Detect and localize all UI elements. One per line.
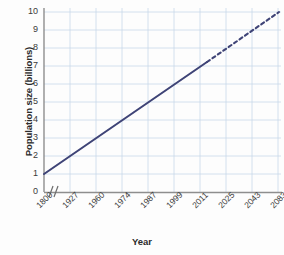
y-tick-label: 10 bbox=[18, 6, 38, 16]
chart-plot-area bbox=[0, 0, 284, 255]
series-projected-line bbox=[207, 12, 279, 62]
x-axis-title: Year bbox=[0, 236, 284, 247]
series-observed-line bbox=[44, 62, 207, 174]
y-tick-label: 0 bbox=[18, 186, 38, 196]
population-growth-chart: 10 9 8 7 6 5 4 3 2 1 0 1800 1927 1960 19… bbox=[0, 0, 284, 255]
y-axis-title: Population size (billions) bbox=[23, 22, 34, 182]
